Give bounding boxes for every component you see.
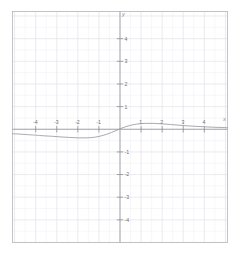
coordinate-plane-plot: -4-3-2-11234 4321-1-2-3-4 y x	[0, 0, 238, 257]
x-tick-label: -2	[75, 119, 80, 125]
x-tick-label: -4	[33, 119, 38, 125]
x-tick-label: -1	[96, 119, 101, 125]
x-tick-label: 4	[202, 119, 205, 125]
y-tick-label: 1	[125, 104, 128, 110]
y-tick-label: 2	[125, 81, 128, 87]
x-tick-label: 1	[139, 119, 142, 125]
graph-figure: -4-3-2-11234 4321-1-2-3-4 y x	[0, 0, 238, 257]
x-axis-label: x	[222, 116, 226, 122]
y-tick-label: -1	[125, 149, 130, 155]
y-tick-label: -4	[125, 217, 130, 223]
x-tick-label: 3	[181, 119, 184, 125]
y-tick-label: 3	[125, 58, 128, 64]
x-tick-label: -3	[54, 119, 59, 125]
y-tick-label: -2	[125, 171, 130, 177]
y-tick-label: -3	[125, 194, 130, 200]
y-tick-label: 4	[125, 36, 128, 42]
